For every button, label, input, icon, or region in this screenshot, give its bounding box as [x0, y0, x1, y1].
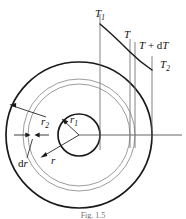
- label-t-plus-dt: T + dT: [139, 40, 168, 51]
- label-r2-subscript: 2: [45, 121, 49, 130]
- label-t1: T1: [95, 8, 105, 22]
- label-t-plus-dt-tail: T: [162, 39, 168, 51]
- cylindrical-wall-heat-conduction-figure: T1 T T + dT T2 r1 r2 r dr Fig. 1.5: [0, 0, 186, 219]
- label-t-symbol: T: [124, 28, 130, 40]
- label-dr-r: r: [24, 157, 28, 169]
- label-r-symbol: r: [51, 154, 55, 166]
- label-t: T: [124, 29, 130, 40]
- label-r1: r1: [70, 114, 78, 128]
- label-t-plus-dt-operator: + d: [145, 39, 162, 51]
- figure-caption: Fig. 1.5: [0, 211, 186, 219]
- label-t2: T2: [160, 59, 170, 73]
- dr-right-arrowhead: [34, 132, 39, 137]
- figure-drawing: [0, 0, 186, 219]
- label-dr: dr: [18, 158, 28, 169]
- label-t1-subscript: 1: [101, 13, 105, 22]
- dr-leader-line: [27, 139, 33, 158]
- r-leader-line: [43, 135, 80, 157]
- r-arrowhead: [40, 152, 47, 158]
- label-r2: r2: [41, 116, 49, 130]
- label-t2-subscript: 2: [166, 64, 170, 73]
- label-r1-subscript: 1: [74, 119, 78, 128]
- label-r: r: [51, 155, 55, 166]
